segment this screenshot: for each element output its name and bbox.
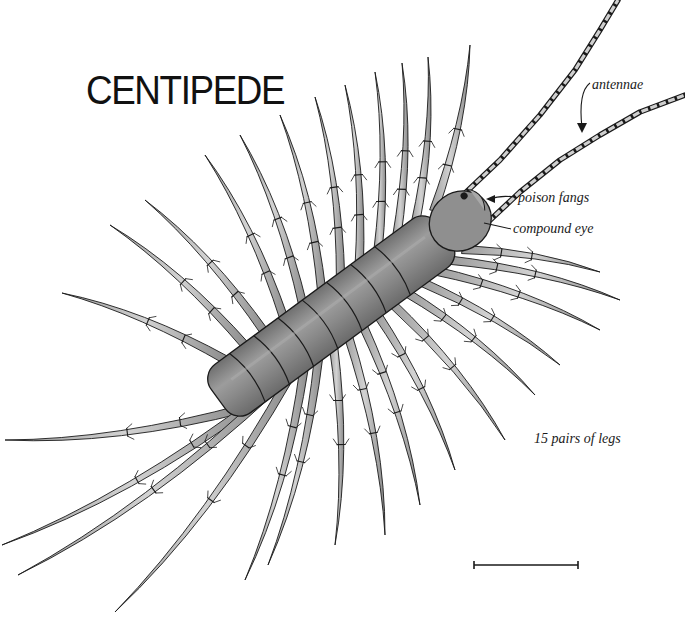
leg-spine xyxy=(345,439,349,445)
leg-spine xyxy=(528,278,535,281)
leg-spine xyxy=(338,187,343,192)
label-antennae: antennae xyxy=(592,77,643,93)
leg-spine xyxy=(375,162,379,168)
leg-spine xyxy=(284,259,286,266)
leg-spine xyxy=(128,436,134,439)
fangs-arrowhead xyxy=(486,195,495,203)
leg-spine xyxy=(392,353,398,357)
leg-spine xyxy=(302,407,304,414)
leg-spine xyxy=(232,297,233,304)
leg xyxy=(345,85,367,266)
leg-spine xyxy=(207,266,208,273)
leg-spine xyxy=(415,339,422,341)
leg-spine xyxy=(127,424,132,429)
leg xyxy=(411,57,435,225)
leg-spine xyxy=(146,325,150,331)
leg-spine xyxy=(327,188,330,194)
leg-spine xyxy=(362,174,366,180)
leg-spine xyxy=(401,404,403,411)
leg-spine xyxy=(531,265,536,270)
leg xyxy=(205,155,288,322)
leg-spine xyxy=(353,385,358,390)
leg xyxy=(373,72,391,252)
label-compound-eye: compound eye xyxy=(513,221,593,237)
leg-spine xyxy=(364,429,369,434)
leg-spine xyxy=(311,202,316,207)
leg-spine xyxy=(474,329,476,336)
leg-spine xyxy=(286,419,288,426)
leg-spine xyxy=(494,257,501,260)
leg xyxy=(329,344,349,545)
label-poison-fangs: poison fangs xyxy=(518,190,589,206)
leg-joint xyxy=(354,214,363,215)
leg-spine xyxy=(305,458,310,463)
scale-bar xyxy=(474,561,578,569)
leg-spine xyxy=(180,285,182,292)
leg xyxy=(372,311,455,470)
leg-spine xyxy=(246,237,247,244)
leg-spine xyxy=(393,189,397,195)
leg-spine xyxy=(333,439,337,445)
leg-spine xyxy=(180,413,185,418)
leg-spine xyxy=(516,285,520,291)
leg-joint xyxy=(354,174,363,175)
leg-spine xyxy=(254,233,260,237)
leg-spine xyxy=(425,380,426,387)
leg-spine xyxy=(351,215,355,221)
leg-spine xyxy=(351,175,355,181)
leg-spine xyxy=(491,308,494,315)
leg-spine xyxy=(272,220,274,227)
leg-spine xyxy=(182,343,186,349)
leg-spine xyxy=(462,130,465,137)
leg-spine xyxy=(186,279,193,280)
leg-spine xyxy=(449,128,454,133)
leg-spine xyxy=(330,228,333,234)
leg-spine xyxy=(397,151,401,157)
leg-spine xyxy=(525,260,532,263)
leg-spine xyxy=(451,166,454,173)
leg-spine xyxy=(388,409,394,413)
leg-spine xyxy=(434,321,441,322)
leg-spine xyxy=(149,316,156,317)
leg-spine xyxy=(151,480,153,487)
leg-joint xyxy=(418,177,427,178)
leg-spine xyxy=(330,395,334,401)
leg-spine xyxy=(209,314,211,321)
diagram-title: CENTIPEDE xyxy=(86,66,284,114)
leg-spine xyxy=(276,467,278,474)
leg-spine xyxy=(190,434,193,440)
leg-spine xyxy=(438,164,443,169)
antennae xyxy=(462,0,685,222)
label-leg-pairs: 15 pairs of legs xyxy=(534,431,621,447)
leg-spine xyxy=(511,298,518,300)
antennae-arrowhead xyxy=(577,123,587,133)
leg-spine xyxy=(213,260,220,262)
leg-spine xyxy=(473,288,480,290)
leg-spine xyxy=(464,341,471,342)
leg-spine xyxy=(286,471,291,476)
leg-spine xyxy=(419,141,423,147)
leg xyxy=(430,45,470,212)
leg-spine xyxy=(414,178,418,184)
leg-spine xyxy=(214,500,221,502)
leg-spine xyxy=(135,470,138,476)
leg-spine xyxy=(431,141,435,147)
leg-spine xyxy=(455,357,456,364)
leg-spine xyxy=(294,454,296,461)
leg xyxy=(145,200,269,337)
leg-spine xyxy=(443,368,450,370)
leg-spine xyxy=(489,272,496,275)
leg-spine xyxy=(377,426,380,433)
leg-spine xyxy=(281,217,287,221)
centipede-diagram: CENTIPEDE antennae poison fangs compound… xyxy=(0,0,685,629)
leg-spine xyxy=(139,484,146,485)
leg-spine xyxy=(372,370,378,374)
leg xyxy=(280,115,326,294)
leg-spine xyxy=(411,387,417,391)
leg-spine xyxy=(301,203,304,210)
leg-spine xyxy=(261,274,262,281)
leg-joint xyxy=(423,141,432,142)
leg-spine xyxy=(307,243,310,250)
leg-spine xyxy=(527,247,532,252)
leg-spine xyxy=(194,447,201,448)
